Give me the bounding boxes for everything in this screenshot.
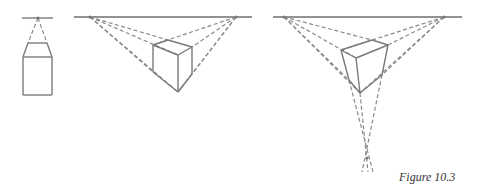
construction-line	[388, 17, 444, 45]
vanishing-point	[36, 16, 39, 19]
vanishing-point	[365, 156, 368, 159]
construction-line	[90, 17, 168, 40]
box-edge	[153, 45, 178, 55]
box-edge	[178, 74, 192, 92]
perspective-figure	[0, 0, 482, 189]
box-edge	[153, 40, 168, 45]
construction-line	[382, 17, 444, 75]
vanishing-point	[282, 15, 285, 18]
box-edge	[356, 58, 360, 93]
construction-line	[38, 18, 47, 43]
two-point-perspective-panel	[74, 15, 252, 92]
construction-line	[28, 18, 38, 43]
one-point-perspective-panel	[22, 16, 53, 95]
three-point-perspective-panel	[273, 15, 462, 172]
figure-caption: Figure 10.3	[399, 170, 455, 185]
box-edge	[153, 72, 178, 92]
box-edge	[341, 40, 372, 50]
vanishing-point	[234, 15, 237, 18]
box-edge	[356, 45, 388, 58]
construction-line	[192, 17, 236, 47]
construction-line	[360, 17, 444, 93]
construction-line	[284, 17, 372, 40]
box-edge	[168, 40, 192, 47]
box-edge	[178, 47, 192, 55]
vanishing-point	[442, 15, 445, 18]
box-edge	[23, 43, 28, 57]
box-edge	[372, 40, 388, 45]
box-edge	[47, 43, 52, 57]
construction-line	[349, 80, 373, 172]
construction-line	[284, 17, 360, 93]
vanishing-point	[88, 15, 91, 18]
